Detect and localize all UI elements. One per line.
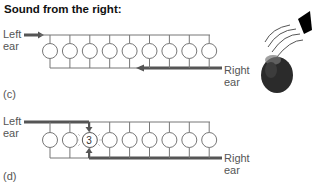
neuron-circle: [122, 44, 137, 59]
neuron-circle: [43, 44, 58, 59]
neuron-circle: [102, 133, 117, 148]
listener-illustration: [261, 11, 312, 93]
neuron-circle: [142, 44, 157, 59]
sound-waves-icon: [265, 25, 303, 58]
neuron-circle: [162, 44, 177, 59]
right-ear-arrow-head: [136, 65, 144, 72]
neuron-circle: [182, 44, 197, 59]
speaker-icon: [298, 11, 312, 34]
down-arrow-to-neuron-3: [86, 127, 93, 132]
neuron-circle: [62, 44, 77, 59]
neuron-circle: [162, 133, 177, 148]
neuron-circle: [43, 133, 58, 148]
neuron-circle: [202, 44, 217, 59]
neuron-circle: [122, 133, 137, 148]
panel-d-circuit: 3: [24, 122, 222, 158]
up-arrow-to-neuron-3: [86, 148, 93, 153]
neuron-circle: [62, 133, 77, 148]
neuron-circle: [202, 133, 217, 148]
delay-line-diagram: 3: [0, 0, 312, 184]
neuron-circle: [182, 133, 197, 148]
panel-c-circuit: [24, 32, 222, 72]
neuron-circle: [102, 44, 117, 59]
neuron-circle: [82, 44, 97, 59]
neuron-circle: [142, 133, 157, 148]
neuron-3-label: 3: [86, 135, 92, 146]
